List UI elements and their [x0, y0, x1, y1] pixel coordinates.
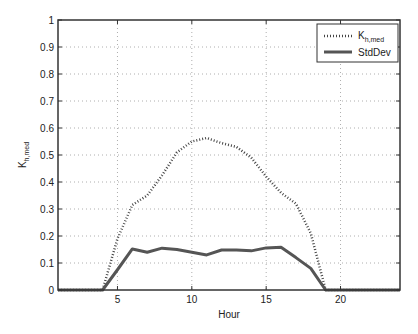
legend-entry-stddev: StdDev: [358, 47, 391, 58]
y-tick-label: 0.6: [40, 123, 54, 134]
legend: Kh,med StdDev: [317, 24, 398, 62]
y-tick-label: 0.8: [40, 69, 54, 80]
y-tick-label: 0: [48, 285, 54, 296]
x-tick-label: 10: [186, 294, 198, 305]
series-kmed-line: [58, 138, 400, 290]
svg-text:Kh,med: Kh,med: [17, 142, 30, 168]
series-layer: [58, 138, 400, 290]
y-tick-label: 0.1: [40, 258, 54, 269]
y-tick-label: 0.4: [40, 177, 54, 188]
y-tick-label: 0.9: [40, 42, 54, 53]
legend-kmed-sub: h,med: [365, 36, 385, 43]
x-tick-label: 20: [335, 294, 347, 305]
y-axis-label: Kh,med: [17, 142, 30, 168]
y-tick-label: 0.7: [40, 96, 54, 107]
x-tick-label: 5: [115, 294, 121, 305]
x-axis-ticks: 5101520: [115, 20, 347, 305]
x-axis-label: Hour: [218, 309, 240, 320]
y-tick-label: 0.5: [40, 150, 54, 161]
y-tick-label: 0.2: [40, 231, 54, 242]
y-tick-label: 0.3: [40, 204, 54, 215]
x-tick-label: 15: [261, 294, 273, 305]
chart-figure: 00.10.20.30.40.50.60.70.80.91 5101520 Ho…: [0, 0, 418, 334]
y-axis-label-sub: h,med: [23, 142, 30, 162]
y-tick-label: 1: [48, 15, 54, 26]
